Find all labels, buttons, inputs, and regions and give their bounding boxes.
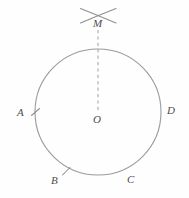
geometry-canvas [0, 0, 189, 198]
point-label-o: O [93, 114, 101, 125]
geometry-figure: A B C D O M [0, 0, 189, 198]
point-label-a: A [17, 107, 24, 118]
main-circle [35, 49, 161, 175]
point-label-c: C [127, 174, 134, 185]
point-label-m: M [93, 18, 102, 29]
tick-mark-at-b-icon [63, 168, 71, 176]
point-label-d: D [167, 105, 175, 116]
point-label-b: B [51, 175, 58, 186]
